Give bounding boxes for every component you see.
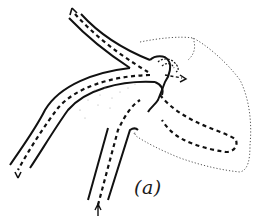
figure-label: (a) — [134, 176, 162, 198]
junction-curl-inner — [162, 64, 174, 68]
vessel-upper-flow — [75, 14, 148, 72]
vessel-flow-diagram: (a) — [0, 0, 261, 221]
vessel-bottom-wall-left — [88, 128, 108, 200]
arrowhead-down-left-icon — [15, 172, 21, 178]
arrowhead-up-icon — [95, 204, 101, 216]
organ-outline-dotted-inner — [188, 38, 195, 60]
loop-flow-outer — [160, 95, 237, 152]
organ-outline-dotted — [134, 37, 251, 172]
vessel-upper-wall-outer — [69, 18, 130, 68]
arrowhead-right-icon — [180, 75, 186, 82]
vessel-left-wall-inner — [30, 82, 155, 168]
shading-speckles — [79, 84, 135, 119]
vessel-upper-wall-inner — [81, 14, 150, 60]
